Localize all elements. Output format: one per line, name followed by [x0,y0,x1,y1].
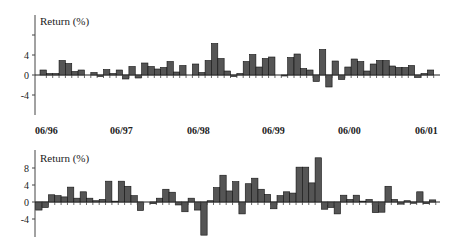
bar [302,167,308,202]
bar [288,58,294,76]
bar [372,202,378,213]
bar [353,195,359,202]
bar [290,193,296,202]
date-label: 06/98 [187,125,210,136]
bar [264,194,270,202]
x-axis-date-labels: 06/9606/9706/9806/9906/0006/01 [35,125,438,136]
bar [307,70,313,75]
bar [391,199,397,202]
bar [239,202,245,214]
bar [194,202,200,210]
y-tick-label: 4 [24,50,29,61]
date-label: 06/01 [415,125,438,136]
bar [220,175,226,202]
bar [429,200,435,202]
bar [258,189,264,202]
bar [67,187,73,202]
bar [106,181,112,202]
bar [199,73,205,76]
bar [347,199,353,202]
y-tick-label: 0 [24,70,29,81]
bar [383,61,389,76]
bar [277,196,283,202]
bar [99,199,105,202]
bar [59,61,65,76]
bar [427,70,433,75]
bar [243,62,249,76]
bottom-y-ticks: 840-4 [21,163,35,225]
y-tick-label: 4 [24,180,29,191]
bar [161,68,167,76]
bar [46,74,52,76]
bar [370,64,376,75]
bar [309,183,315,202]
bar [182,202,188,212]
date-label: 06/97 [110,125,133,136]
bar [231,75,237,77]
bar [358,62,364,76]
bar [404,201,410,202]
date-label: 06/99 [262,125,285,136]
bottom-bars [36,158,436,235]
bar [402,68,408,76]
bar [53,74,59,76]
bar [188,198,194,202]
bar [137,202,143,211]
bar [321,202,327,209]
bar [91,73,97,76]
bar [163,189,169,202]
bar [55,196,61,202]
date-label: 06/96 [35,125,58,136]
bar [328,202,334,208]
bar [300,69,306,76]
bar [245,184,251,202]
bar [74,198,80,202]
bar [150,202,156,204]
bar [385,186,391,202]
bar [296,167,302,202]
y-tick-label: -4 [21,214,29,225]
y-tick-label: 0 [24,197,29,208]
bar [116,70,122,75]
bar [315,158,321,202]
bar [40,70,46,75]
bar [65,64,71,76]
top-y-axis-label: Return (%) [40,15,90,28]
bar [294,54,300,75]
bar [112,201,118,202]
bar [167,62,173,76]
date-label: 06/00 [338,125,361,136]
top-bars [40,44,434,88]
return-bar-charts: Return (%) 40-4 06/9606/9706/9806/9906/0… [0,0,457,251]
bar [218,59,224,76]
bar [205,61,211,76]
top-y-ticks: 40-4 [21,35,35,101]
bar [408,66,414,76]
bar [129,67,135,76]
bar [233,182,239,202]
bar [410,202,416,203]
bar [175,202,181,205]
bar [262,59,268,76]
bar [207,201,213,202]
bar [61,197,67,202]
bar [417,192,423,202]
bottom-return-chart: Return (%) 840-4 [21,150,440,237]
top-return-chart: Return (%) 40-4 [21,15,440,115]
bar [389,66,395,75]
bar [398,202,404,204]
bar [338,75,344,80]
bar [192,64,198,75]
bar [421,74,427,76]
bar [334,202,340,214]
y-tick-label: 8 [24,163,29,174]
bar [78,70,84,75]
bar [118,181,124,202]
bar [283,192,289,202]
bar [281,75,287,76]
bar [148,67,154,76]
bar [252,178,258,202]
bar [214,188,220,202]
bar [201,202,207,235]
bar [377,61,383,76]
